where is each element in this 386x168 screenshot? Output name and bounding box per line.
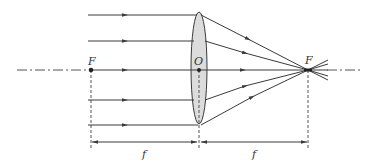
optical-center-point — [197, 68, 201, 72]
incident-rays — [88, 15, 199, 125]
left-focus-point — [89, 68, 94, 73]
lens-diagram: F O F f f — [0, 0, 386, 168]
right-focus-point — [304, 69, 312, 72]
optical-center-label: O — [194, 55, 203, 68]
focal-length-label-right: f — [251, 148, 258, 161]
left-focus-label: F — [87, 55, 96, 68]
focal-length-label-left: f — [141, 148, 148, 161]
focal-reference-lines — [91, 70, 308, 150]
right-focus-label: F — [304, 54, 313, 67]
